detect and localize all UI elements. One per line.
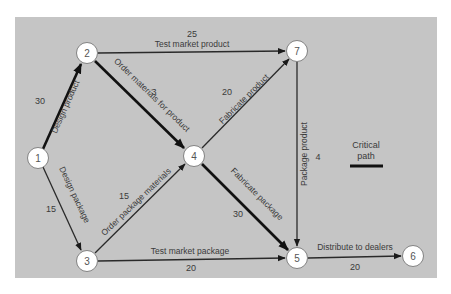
edge-label-test-market-product: Test market product xyxy=(155,39,230,49)
legend-critical-label: Critical xyxy=(352,140,380,150)
edge-duration-7-5: 4 xyxy=(315,152,320,162)
edge-duration-4-7: 20 xyxy=(222,87,232,97)
node-1-label: 1 xyxy=(35,153,41,164)
node-5: 5 xyxy=(287,248,308,269)
node-7: 7 xyxy=(287,41,308,62)
edge-label-test-market-package: Test market package xyxy=(151,246,230,256)
node-4: 4 xyxy=(184,146,205,167)
edge-duration-4-5: 30 xyxy=(233,209,243,219)
edge-label-package-product: Package product xyxy=(299,121,309,185)
node-1: 1 xyxy=(28,148,49,169)
edge-duration-3-5: 20 xyxy=(186,263,196,273)
node-2: 2 xyxy=(77,43,98,64)
node-2-label: 2 xyxy=(84,48,90,59)
edge-label-distribute-to-dealers: Distribute to dealers xyxy=(317,242,393,252)
legend-path-label: path xyxy=(357,151,375,161)
node-6-label: 6 xyxy=(410,251,416,262)
node-7-label: 7 xyxy=(294,46,300,57)
edge-duration-5-6: 20 xyxy=(350,262,360,272)
edge-duration-2-7: 25 xyxy=(187,29,197,39)
node-3: 3 xyxy=(77,251,98,272)
node-4-label: 4 xyxy=(191,151,197,162)
edge-duration-3-4: 15 xyxy=(119,191,129,201)
node-6: 6 xyxy=(403,246,424,267)
edge-duration-2-4: 3 xyxy=(151,87,156,97)
node-3-label: 3 xyxy=(84,256,90,267)
edge-duration-1-2: 30 xyxy=(35,96,45,106)
pert-diagram: Design product 30 Design package 15 Test… xyxy=(0,0,451,294)
node-5-label: 5 xyxy=(294,253,300,264)
edge-duration-1-3: 15 xyxy=(46,204,56,214)
